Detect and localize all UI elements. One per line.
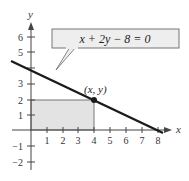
- y-axis-arrow-icon: [28, 22, 34, 30]
- point-marker: [91, 97, 97, 103]
- x-tick-3: 3: [76, 135, 81, 146]
- y-tick-3: 3: [18, 78, 23, 89]
- x-axis-label: x: [175, 123, 181, 135]
- point-label: (x, y): [84, 83, 107, 96]
- y-tick-6: 6: [18, 32, 23, 43]
- equation-label: x + 2y − 8 = 0: [79, 32, 151, 46]
- x-tick-7: 7: [140, 135, 145, 146]
- shaded-rectangle: [31, 100, 94, 130]
- callout-pointer: [56, 47, 76, 70]
- x-tick-4: 4: [92, 135, 97, 146]
- y-tick-1: 1: [18, 110, 23, 121]
- x-tick-5: 5: [108, 135, 113, 146]
- x-tick-2: 2: [61, 135, 66, 146]
- x-tick-6: 6: [124, 135, 129, 146]
- x-tick-8: 8: [156, 135, 161, 146]
- y-tick-5: 5: [18, 47, 23, 58]
- figure-canvas: 1 2 3 4 5 6 7 8 x 6 5 3 2 1 −1 −2 y: [0, 0, 189, 181]
- y-axis-label: y: [27, 8, 33, 20]
- x-axis-arrow-icon: [164, 127, 172, 133]
- equation-callout: x + 2y − 8 = 0: [52, 29, 179, 70]
- y-tick-2: 2: [18, 95, 23, 106]
- x-tick-1: 1: [45, 135, 50, 146]
- y-tick-neg1: −1: [12, 141, 23, 152]
- y-tick-neg2: −2: [12, 157, 23, 168]
- y-axis: 6 5 3 2 1 −1 −2 y: [12, 8, 35, 170]
